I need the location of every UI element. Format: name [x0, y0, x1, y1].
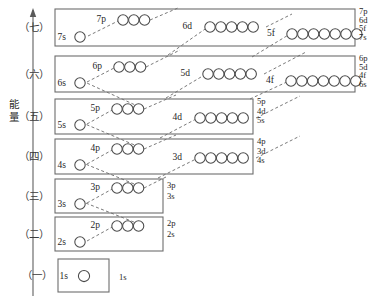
right-label-2p-period-2: 2p [167, 218, 176, 228]
right-label-3d-period-4: 3d [257, 146, 266, 156]
period-5: （五）5s5p4d [19, 99, 253, 134]
orbital-label-1s: 1s [60, 271, 69, 281]
orbital-circle-2p-1 [112, 221, 122, 231]
period-7: （七）7s7p6d5f [19, 9, 362, 46]
orbital-circle-6d-4 [237, 22, 247, 32]
orbital-label-3s: 3s [58, 199, 67, 209]
right-label-4s-period-4: 4s [257, 155, 265, 165]
orbital-circle-4s-1 [75, 160, 85, 170]
arrow-4p-up-right [144, 135, 176, 149]
orbital-circle-7p-3 [139, 15, 149, 25]
period-label-period-5: （五） [19, 111, 49, 122]
axis-arrowhead-icon [30, 8, 36, 17]
orbital-circle-3p-1 [112, 183, 122, 193]
orbital-circle-5d-3 [224, 69, 234, 79]
right-label-4p-period-4: 4p [257, 136, 266, 146]
orbital-circle-4d-3 [216, 113, 226, 123]
orbital-circle-7p-1 [118, 15, 128, 25]
orbital-circle-2s-1 [75, 237, 85, 247]
orbital-group-4p: 4p [91, 143, 144, 154]
arrow-3p-up-right [144, 176, 168, 188]
orbital-label-5s: 5s [58, 120, 67, 130]
orbital-circle-3s-1 [75, 199, 85, 209]
orbital-label-2s: 2s [58, 237, 67, 247]
right-labels-period-2: 2p2s [167, 218, 176, 239]
orbital-circle-5f-6 [341, 29, 351, 39]
orbital-group-7p: 7p [97, 14, 150, 25]
energy-level-diagram: 能量 （七）7s7p6d5f（六）6s6p5d4f（五）5s5p4d（四）4s4… [0, 0, 379, 301]
orbital-circle-3p-2 [123, 183, 133, 193]
orbital-label-5f: 5f [267, 28, 276, 38]
orbital-label-2p: 2p [91, 220, 101, 230]
orbital-circle-3d-1 [195, 153, 205, 163]
right-label-5s-period-5: 5s [257, 115, 265, 125]
orbital-label-6d: 6d [183, 21, 193, 31]
period-box-period-3 [55, 179, 163, 213]
orbital-circle-4f-6 [340, 76, 350, 86]
right-label-4d-period-5: 4d [257, 106, 266, 116]
orbital-circle-5p-3 [133, 104, 143, 114]
orbital-group-6s: 6s [58, 78, 86, 88]
orbital-label-3d: 3d [173, 152, 183, 162]
arrow-6d-to-7p-chain [168, 27, 208, 55]
orbital-circle-1s-1 [78, 270, 89, 281]
orbital-circle-6d-2 [216, 22, 226, 32]
right-label-6s-period-6: 6s [359, 79, 367, 89]
right-label-1s-period-1: 1s [119, 272, 127, 282]
orbital-group-3d: 3d [173, 152, 249, 163]
orbital-circle-6p-1 [114, 62, 124, 72]
right-labels-period-7: 7p6d5f7s [359, 6, 368, 42]
orbital-circle-3d-3 [216, 153, 226, 163]
arrow-5p-up-right [144, 95, 176, 109]
right-labels-period-6: 6p5d4f6s [359, 53, 368, 89]
right-label-2s-period-2: 2s [167, 229, 175, 239]
orbital-circle-4f-2 [297, 76, 307, 86]
orbital-circle-5f-5 [330, 29, 340, 39]
orbital-circle-4f-3 [307, 76, 317, 86]
orbital-circle-5p-1 [112, 104, 122, 114]
orbital-circle-3p-3 [133, 183, 143, 193]
period-2: （二）2s2p [19, 217, 163, 251]
orbital-circle-6d-1 [205, 22, 215, 32]
right-label-3p-period-3: 3p [167, 180, 176, 190]
orbital-label-3p: 3p [91, 182, 101, 192]
orbital-label-6p: 6p [93, 61, 103, 71]
orbital-circle-5f-4 [319, 29, 329, 39]
period-box-period-2 [55, 217, 163, 251]
orbital-group-3s: 3s [58, 199, 86, 209]
period-label-period-7: （七） [19, 22, 49, 33]
orbital-label-5d: 5d [181, 68, 191, 78]
orbital-group-3p: 3p [91, 182, 144, 193]
orbital-circle-4d-1 [195, 113, 205, 123]
orbital-circle-5s-1 [75, 120, 85, 130]
period-1: （一）1s [22, 259, 109, 292]
axis-label-char: 能 [9, 98, 20, 110]
orbital-group-4d: 4d [173, 112, 249, 123]
orbital-circle-6d-3 [226, 22, 236, 32]
orbital-circle-5d-5 [246, 69, 256, 79]
orbital-circle-5p-2 [123, 104, 133, 114]
orbital-circle-3d-2 [206, 153, 216, 163]
period-3: （三）3s3p [19, 179, 163, 213]
orbital-circle-6d-5 [248, 22, 258, 32]
orbital-label-4d: 4d [173, 112, 183, 122]
orbital-group-1s: 1s [60, 270, 90, 281]
orbital-group-2p: 2p [91, 220, 144, 231]
right-label-7s-period-7: 7s [359, 32, 367, 42]
orbital-group-5s: 5s [58, 120, 86, 130]
arrow-6d-up-right [266, 14, 292, 27]
orbital-circle-4p-1 [112, 144, 122, 154]
arrow-5d-up-right [264, 52, 306, 74]
orbital-circle-7p-2 [129, 15, 139, 25]
right-labels-period-5: 5p4d5s [257, 96, 266, 125]
orbital-circle-4d-4 [227, 113, 237, 123]
orbital-label-5p: 5p [91, 103, 101, 113]
energy-level-svg: 能量 （七）7s7p6d5f（六）6s6p5d4f（五）5s5p4d（四）4s4… [0, 0, 379, 301]
right-label-5p-period-5: 5p [257, 96, 266, 106]
arrow-4p-to-5s [78, 121, 144, 149]
orbital-label-4f: 4f [266, 75, 275, 85]
period-boxes: （七）7s7p6d5f（六）6s6p5d4f（五）5s5p4d（四）4s4p3d… [19, 9, 362, 292]
orbital-circle-7s-1 [75, 32, 85, 42]
orbital-circle-5d-2 [214, 69, 224, 79]
period-label-period-1: （一） [22, 270, 52, 281]
